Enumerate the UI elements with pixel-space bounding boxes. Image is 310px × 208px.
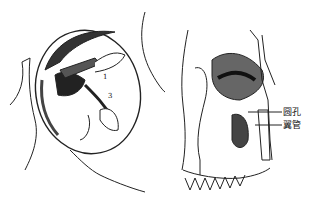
right-skull-drawing <box>182 30 282 190</box>
illustration-svg <box>0 0 310 208</box>
orbit-number-label: 3 <box>108 92 112 100</box>
foramen-rotundum-label: 圆孔 <box>283 107 301 117</box>
orbit-number-label: 1 <box>103 73 107 81</box>
left-orbit-drawing <box>10 12 165 192</box>
anatomy-illustration: 1 3 圆孔 翼管 <box>0 0 310 208</box>
pterygoid-canal-label: 翼管 <box>283 120 301 130</box>
